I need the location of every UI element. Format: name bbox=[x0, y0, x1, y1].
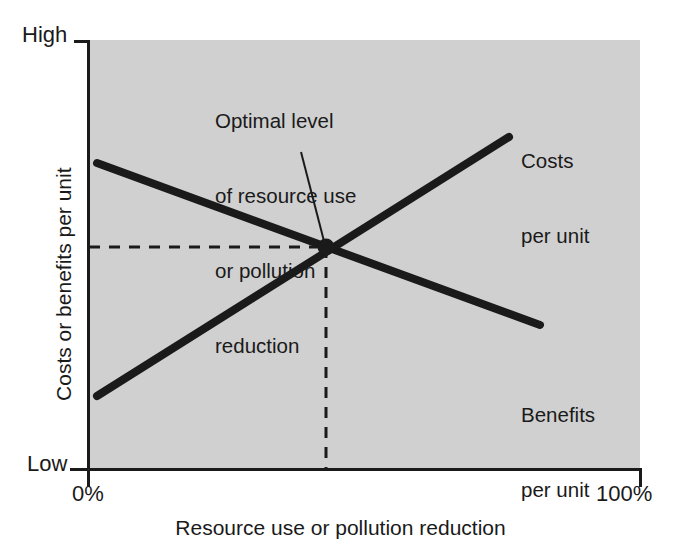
series-label-benefits: Benefits per unit bbox=[521, 352, 595, 552]
optimal-level-annotation: Optimal level of resource use or polluti… bbox=[215, 58, 356, 408]
y-axis-min-label: Low bbox=[27, 451, 67, 477]
series-label-costs: Costs per unit bbox=[521, 98, 589, 298]
series-label-benefits-line-1: Benefits bbox=[521, 402, 595, 427]
chart-figure: High Low 0% 100% Costs or benefits per u… bbox=[0, 0, 681, 558]
series-label-costs-line-2: per unit bbox=[521, 223, 589, 248]
annotation-line-3: or pollution bbox=[215, 258, 356, 283]
y-axis-title: Costs or benefits per unit bbox=[52, 154, 76, 414]
y-axis-max-label: High bbox=[22, 22, 67, 48]
annotation-line-2: of resource use bbox=[215, 183, 356, 208]
x-axis-min-label: 0% bbox=[72, 481, 104, 507]
annotation-line-1: Optimal level bbox=[215, 108, 356, 133]
series-label-benefits-line-2: per unit bbox=[521, 477, 595, 502]
x-axis-max-label: 100% bbox=[596, 481, 652, 507]
annotation-line-4: reduction bbox=[215, 333, 356, 358]
series-label-costs-line-1: Costs bbox=[521, 148, 589, 173]
